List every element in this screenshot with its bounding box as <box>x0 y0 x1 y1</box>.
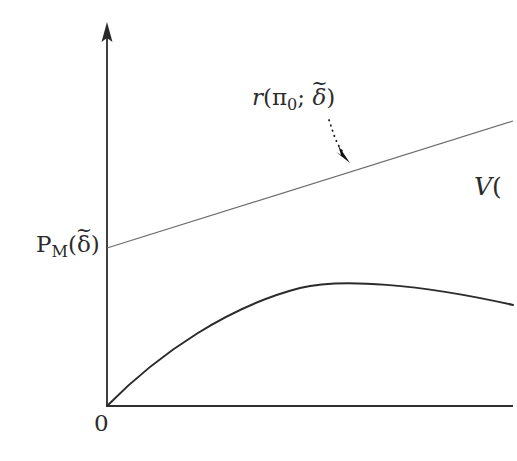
value-curve-series <box>107 283 513 406</box>
line-arg1: π <box>272 84 287 110</box>
y-intercept-label: PM(~δ) <box>36 233 100 260</box>
intercept-base: P <box>36 231 51 257</box>
line-open-paren: ( <box>263 84 272 110</box>
figure-canvas: PM(~δ) r(π0; ~δ) V( 0 <box>0 0 517 461</box>
value-base: V <box>474 172 492 201</box>
vertical-axis <box>102 22 113 406</box>
intercept-subscript: M <box>51 242 67 261</box>
value-open-paren: ( <box>492 172 502 201</box>
origin-label: 0 <box>94 412 109 435</box>
line-arg1-subscript: 0 <box>287 95 297 114</box>
line-base: r <box>252 84 263 110</box>
intercept-close-paren: ) <box>91 231 100 257</box>
line-arg2-accented: ~δ <box>312 86 326 109</box>
intercept-arg-accented: ~δ <box>77 233 91 256</box>
annotation-arrow-icon <box>329 120 350 163</box>
line-close-paren: ) <box>326 84 335 110</box>
value-curve-label: V( <box>474 174 502 199</box>
reservation-line-label: r(π0; ~δ) <box>252 86 335 113</box>
reservation-line-series <box>107 121 513 248</box>
intercept-tilde-accent: ~ <box>76 221 92 241</box>
line-separator: ; <box>297 84 305 110</box>
line-tilde-accent: ~ <box>311 74 327 94</box>
